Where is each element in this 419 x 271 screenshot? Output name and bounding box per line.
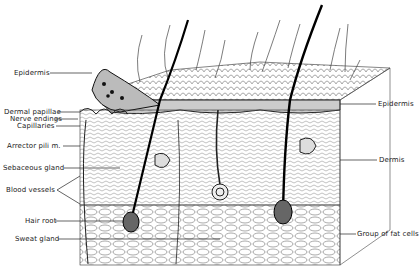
- label-capillaries: Capillaries: [17, 122, 55, 130]
- label-epidermis-right: Epidermis: [378, 100, 414, 108]
- label-arrector-pili: Arrector pili m.: [7, 142, 61, 150]
- dermis-block: [80, 108, 340, 205]
- label-sweat-gland: Sweat gland: [15, 235, 59, 243]
- label-sebaceous-gland: Sebaceous gland: [3, 164, 64, 172]
- label-dermis: Dermis: [379, 156, 404, 164]
- label-epidermis-left: Epidermis: [14, 69, 50, 77]
- label-blood-vessels: Blood vessels: [6, 186, 55, 194]
- label-hair-root: Hair root: [25, 217, 57, 225]
- fat-layer: [80, 205, 340, 265]
- label-group-of-fat-cells: Group of fat cells: [357, 230, 419, 238]
